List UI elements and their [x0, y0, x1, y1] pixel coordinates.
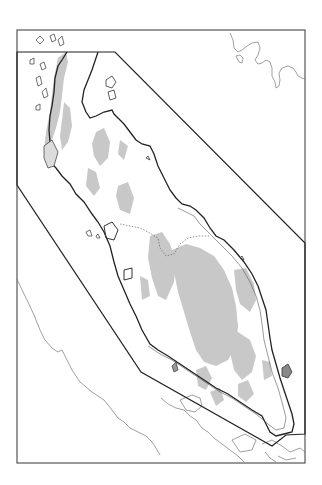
peninsula-map: [0, 0, 322, 485]
map-figure: [0, 0, 322, 485]
foreign-coastline-islet: [236, 55, 243, 63]
peninsula-coastline: [48, 52, 294, 436]
foreign-coastline-southwest: [161, 398, 244, 462]
west-coast-islands: [30, 34, 178, 372]
foreign-coastline-west: [17, 279, 160, 455]
foreign-coastline-northeast: [230, 33, 305, 88]
